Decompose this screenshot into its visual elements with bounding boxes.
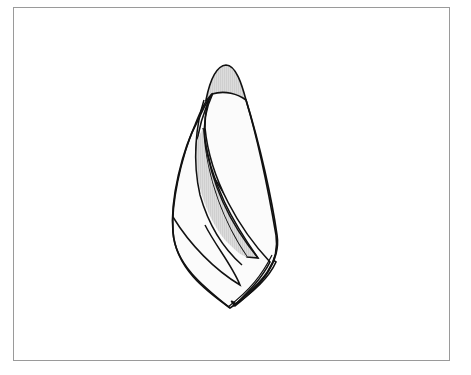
bud-illustration: [0, 0, 471, 375]
